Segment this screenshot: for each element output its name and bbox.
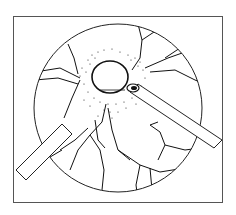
fundus-circle: [34, 24, 202, 192]
fundus-illustration: [0, 0, 236, 215]
haemorrhage-dots: [79, 48, 145, 118]
right-instrument: [127, 84, 222, 148]
retinal-vessels: [35, 24, 215, 200]
optic-disc: [92, 61, 128, 93]
